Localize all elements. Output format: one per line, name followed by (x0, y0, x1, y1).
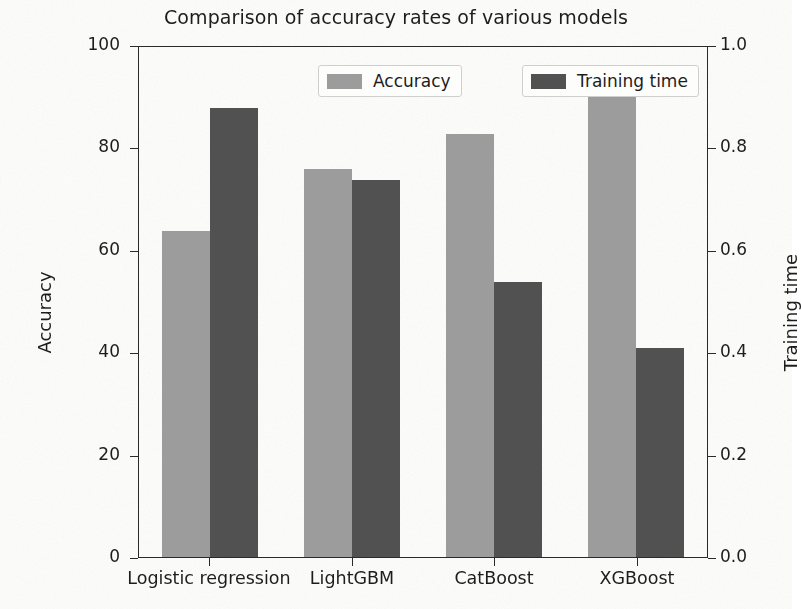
bar-group-lightgbm (281, 47, 423, 557)
ytick-mark-right-1.0 (708, 46, 716, 47)
ytick-mark-left-40 (130, 353, 138, 354)
ytick-label-left-80: 80 (10, 136, 120, 156)
ytick-mark-right-0.8 (708, 148, 716, 149)
legend-label-training-time: Training time (577, 71, 688, 91)
bar-series-container (139, 47, 707, 557)
xtick-label-logistic-regression: Logistic regression (127, 568, 290, 588)
xtick-label-lightgbm: LightGBM (310, 568, 394, 588)
xtick-mark-1 (352, 558, 353, 566)
bar-group-xgboost (565, 47, 707, 557)
ytick-mark-left-60 (130, 251, 138, 252)
legend-entry-training-time: Training time (522, 65, 699, 97)
bar-training-time-xgboost (636, 348, 684, 557)
xtick-mark-0 (209, 558, 210, 566)
bar-accuracy-catboost (446, 134, 494, 557)
bar-training-time-logistic-regression (210, 108, 258, 557)
bar-training-time-catboost (494, 282, 542, 557)
ytick-label-right-0.0: 0.0 (720, 546, 747, 566)
ytick-label-left-40: 40 (10, 341, 120, 361)
ytick-label-right-0.6: 0.6 (720, 239, 747, 259)
ytick-mark-left-0 (130, 558, 138, 559)
ytick-mark-right-0.2 (708, 456, 716, 457)
ytick-label-left-20: 20 (10, 444, 120, 464)
ytick-mark-right-0.6 (708, 251, 716, 252)
ytick-mark-left-20 (130, 456, 138, 457)
bar-training-time-lightgbm (352, 180, 400, 557)
legend-entry-accuracy: Accuracy (318, 65, 462, 97)
plot-area (138, 46, 708, 558)
ytick-label-right-1.0: 1.0 (720, 34, 747, 54)
xtick-mark-3 (637, 558, 638, 566)
ytick-mark-right-0.0 (708, 558, 716, 559)
bar-accuracy-lightgbm (304, 169, 352, 557)
chart-title: Comparison of accuracy rates of various … (0, 6, 792, 28)
ytick-mark-right-0.4 (708, 353, 716, 354)
y-axis-title-accuracy: Accuracy (34, 233, 55, 393)
legend-swatch-training-time (531, 74, 566, 89)
ytick-label-right-0.8: 0.8 (720, 136, 747, 156)
bar-accuracy-logistic-regression (162, 231, 210, 557)
ytick-label-right-0.2: 0.2 (720, 444, 747, 464)
legend-label-accuracy: Accuracy (373, 71, 451, 91)
xtick-label-catboost: CatBoost (454, 568, 533, 588)
legend-swatch-accuracy (327, 74, 362, 89)
ytick-mark-left-80 (130, 148, 138, 149)
ytick-label-left-0: 0 (10, 546, 120, 566)
y-axis-title-training-time: Training time (780, 223, 801, 403)
xtick-mark-2 (494, 558, 495, 566)
ytick-label-left-60: 60 (10, 239, 120, 259)
ytick-label-right-0.4: 0.4 (720, 341, 747, 361)
ytick-label-left-100: 100 (10, 34, 120, 54)
bar-accuracy-xgboost (588, 93, 636, 557)
xtick-label-xgboost: XGBoost (600, 568, 675, 588)
bar-group-logistic-regression (139, 47, 281, 557)
ytick-mark-left-100 (130, 46, 138, 47)
bar-group-catboost (423, 47, 565, 557)
